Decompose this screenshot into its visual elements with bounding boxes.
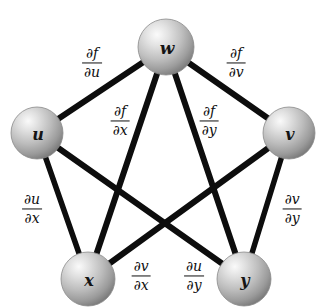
edge-label-w-u-denominator: ∂u [82,65,102,80]
edge-label-w-y-numerator: ∂f [200,104,219,119]
edge-w-y [166,47,244,279]
edge-label-v-x-denominator: ∂x [132,278,151,293]
edge-label-w-x: ∂f ∂x [111,104,130,137]
node-u-label: u [32,125,44,144]
fraction-bar [82,62,102,64]
fraction-bar [184,275,204,277]
node-w-label: w [160,38,176,58]
edge-label-u-y-denominator: ∂y [184,278,204,293]
edge-label-w-u-numerator: ∂f [82,46,102,61]
node-x[interactable]: x [61,252,115,306]
edge-label-w-u: ∂f ∂u [82,46,102,79]
edge-label-v-x-numerator: ∂v [132,259,151,274]
edge-label-w-y: ∂f ∂y [200,104,219,137]
edge-label-u-x-numerator: ∂u [22,192,42,207]
edge-label-w-v-denominator: ∂v [227,65,246,80]
chain-rule-diagram: w u v x y ∂f ∂u ∂f ∂v [0,0,324,308]
fraction-bar [22,208,42,210]
fraction-bar [283,208,302,210]
edge-label-v-x: ∂v ∂x [132,259,151,292]
edge-label-v-y: ∂v ∂y [283,192,302,225]
edge-label-w-v-numerator: ∂f [227,46,246,61]
edge-label-w-x-numerator: ∂f [111,104,130,119]
fraction-bar [111,120,130,122]
fraction-bar [200,120,219,122]
graph-canvas: w u v x y [0,0,324,308]
edge-label-v-y-numerator: ∂v [283,192,302,207]
nodes-group: w u v x y [11,19,315,306]
edge-w-x [88,47,166,279]
node-u[interactable]: u [11,107,63,159]
edge-label-v-y-denominator: ∂y [283,211,302,226]
node-y[interactable]: y [217,252,271,306]
edge-label-u-y-numerator: ∂u [184,259,204,274]
node-v-label: v [285,125,295,144]
fraction-bar [132,275,151,277]
node-v[interactable]: v [263,107,315,159]
node-x-label: x [83,271,94,290]
edge-label-w-y-denominator: ∂y [200,123,219,138]
edge-label-w-x-denominator: ∂x [111,123,130,138]
node-w[interactable]: w [138,19,194,75]
edges-group [37,47,289,279]
node-y-label: y [239,271,251,290]
edge-label-u-x-denominator: ∂x [22,211,42,226]
edge-label-u-y: ∂u ∂y [184,259,204,292]
fraction-bar [227,62,246,64]
edge-u-y [37,133,244,279]
edge-label-w-v: ∂f ∂v [227,46,246,79]
edge-label-u-x: ∂u ∂x [22,192,42,225]
